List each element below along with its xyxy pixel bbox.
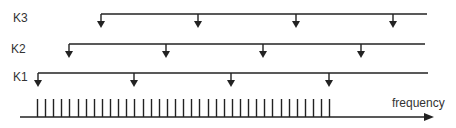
axis-arrow-icon	[424, 113, 434, 121]
arrow-down-icon	[162, 51, 170, 58]
arrow-down-icon	[34, 80, 42, 87]
arrow-down-icon	[194, 21, 202, 28]
arrow-down-icon	[325, 80, 333, 87]
arrow-down-icon	[227, 80, 235, 87]
arrow-down-icon	[259, 51, 267, 58]
comb-label-k3: K3	[13, 12, 28, 24]
arrow-down-icon	[130, 80, 138, 87]
arrow-down-icon	[292, 21, 300, 28]
arrow-down-icon	[389, 21, 397, 28]
comb-label-k2: K2	[11, 43, 26, 55]
axis-label-frequency: frequency	[392, 97, 445, 109]
arrow-down-icon	[97, 21, 105, 28]
diagram-graphics	[0, 0, 456, 128]
arrow-down-icon	[65, 51, 73, 58]
arrow-down-icon	[357, 51, 365, 58]
frequency-comb-diagram: K3 K2 K1 frequency	[0, 0, 456, 128]
comb-label-k1: K1	[13, 71, 28, 83]
